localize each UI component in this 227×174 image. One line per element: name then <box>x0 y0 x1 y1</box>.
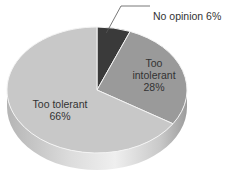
label-too-intolerant-value: 28% <box>130 81 178 93</box>
label-too-tolerant: Too tolerant 66% <box>22 98 98 122</box>
label-too-tolerant-name: Too tolerant <box>22 98 98 110</box>
label-too-intolerant-line2: intolerant <box>130 69 178 81</box>
label-no-opinion: No opinion 6% <box>153 10 221 22</box>
label-too-intolerant: Too intolerant 28% <box>130 57 178 93</box>
label-too-intolerant-line1: Too <box>130 57 178 69</box>
pie-chart <box>0 0 227 174</box>
label-too-tolerant-value: 66% <box>22 110 98 122</box>
